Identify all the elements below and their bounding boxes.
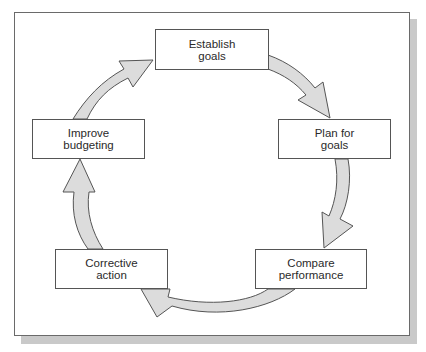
step-label-line1: Establish	[189, 38, 236, 50]
step-label-line1: Plan for	[315, 127, 355, 139]
step-label-line1: Compare	[279, 257, 344, 269]
step-compare-performance: Compare performance	[255, 249, 367, 289]
arrow-corrective-to-improve	[63, 159, 103, 249]
step-label-line1: Corrective	[85, 257, 137, 269]
step-plan-for-goals: Plan for goals	[278, 119, 391, 159]
arrow-compare-to-corrective	[141, 289, 295, 317]
step-establish-goals: Establish goals	[155, 29, 269, 70]
step-label-line2: budgeting	[63, 139, 114, 151]
arrow-improve-to-establish	[73, 60, 153, 119]
step-label-line2: goals	[189, 50, 236, 62]
step-label-line1: Improve	[63, 127, 114, 139]
step-label-line2: action	[85, 269, 137, 281]
arrow-establish-to-plan	[268, 55, 330, 118]
arrow-plan-to-compare	[322, 159, 353, 248]
step-label-line2: goals	[315, 139, 355, 151]
step-corrective-action: Corrective action	[55, 249, 168, 289]
step-label-line2: performance	[279, 269, 344, 281]
step-improve-budgeting: Improve budgeting	[32, 119, 145, 159]
